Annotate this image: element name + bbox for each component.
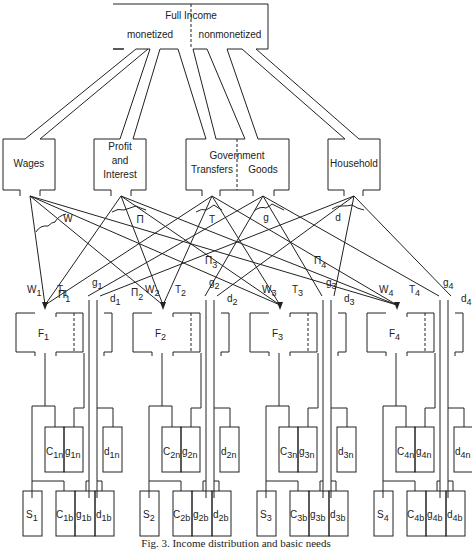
flow-label-d: d	[335, 212, 341, 223]
f3-stem	[266, 353, 289, 498]
full-income-title: Full Income	[165, 10, 217, 21]
arrow-head-icon	[394, 302, 400, 310]
source-profit-box: Profit and Interest	[94, 139, 146, 196]
channel-2-g	[206, 300, 214, 498]
g-2b-label: g2b	[193, 509, 209, 523]
s-3-label: S3	[260, 509, 272, 523]
f1-stem	[32, 353, 55, 498]
w-3-label: W3	[262, 284, 276, 298]
d-2-label: d2	[227, 293, 238, 307]
channel-transfers	[178, 49, 216, 139]
channel-profit	[120, 49, 160, 139]
flow-d-to-f4	[354, 196, 451, 296]
g-3n-label: g3n	[299, 446, 315, 460]
family-group-4: W4T4g4d4F4C4ng4nd4nS4C4bg4bd4b	[367, 277, 472, 536]
channel-1-g	[89, 300, 97, 498]
family-group-3: W3T3g3d3F3C3ng3nd3nS3C3bg3bd3b	[250, 277, 356, 536]
c-1n-label: C1n	[46, 446, 63, 460]
arrow-head-icon	[277, 302, 283, 310]
d1-bracket	[104, 313, 112, 356]
flow-p-to-f4	[121, 196, 397, 305]
f4-box	[367, 313, 434, 356]
c-3b-label: C3b	[290, 509, 307, 523]
f2-g-stem	[191, 353, 201, 427]
flow-label-t: T	[209, 214, 215, 225]
d-4-label: d4	[461, 293, 472, 307]
full-income-box: Full Income monetized nonmonetized	[113, 4, 268, 49]
family-group-1: W1T1g1d1F1C1ng1nd1nS1C1bg1bd1b	[16, 277, 122, 536]
f4-stem	[383, 353, 406, 498]
family-group-2: W2T2g2d2F2C2ng2nd2nS2C2bg2bd2b	[133, 277, 239, 536]
family-groups: W1T1g1d1F1C1ng1nd1nS1C1bg1bd1bW2T2g2d2F2…	[16, 277, 472, 536]
goods-label: Goods	[248, 164, 277, 175]
f3-box	[250, 313, 317, 356]
f4-g-stem	[425, 353, 435, 427]
f1-box	[16, 313, 83, 356]
figure-caption: Fig. 3. Income distribution and basic ne…	[141, 537, 330, 549]
c-2b-label: C2b	[173, 509, 190, 523]
income-channels	[25, 49, 359, 139]
flow-g-to-f3	[263, 196, 322, 296]
government-label: Government	[209, 150, 264, 161]
income-distribution-diagram: Full Income monetized nonmonetized Wages…	[0, 0, 472, 550]
pi-labels: Π1 Π2 Π3 Π4	[58, 255, 326, 304]
c-3n-label: C3n	[280, 446, 297, 460]
f2-stem	[149, 353, 172, 498]
d-1-label: d1	[110, 293, 121, 307]
d-4b-label: d4b	[447, 509, 463, 523]
f-1-label: F1	[38, 328, 49, 342]
d1-stem	[97, 408, 113, 427]
g-4n-label: g4n	[416, 446, 432, 460]
b1-connectors	[32, 481, 102, 491]
flow-label-w: W	[63, 213, 73, 224]
c-4b-label: C4b	[407, 509, 424, 523]
s-4-label: S4	[377, 509, 389, 523]
profit-label-1: Profit	[108, 141, 132, 152]
s-1-label: S1	[26, 509, 38, 523]
transfers-label: Transfers	[191, 164, 233, 175]
f2-box	[133, 313, 200, 356]
wages-label: Wages	[14, 158, 45, 169]
g-4b-label: g4b	[427, 509, 443, 523]
t-3-label: T3	[292, 284, 303, 298]
d-1n-label: d1n	[104, 446, 120, 460]
g-1-label: g1	[92, 277, 103, 291]
d-4n-label: d4n	[455, 446, 471, 460]
s-2-label: S2	[143, 509, 155, 523]
w-1-label: W1	[27, 284, 41, 298]
flow-w-to-f2	[30, 196, 163, 305]
flow-braces: W Π T g d	[36, 204, 364, 232]
g-1n-label: g1n	[65, 446, 81, 460]
d-3-label: d3	[344, 293, 355, 307]
nonmonetized-label: nonmonetized	[199, 29, 262, 40]
d-2n-label: d2n	[221, 446, 237, 460]
household-label: Household	[330, 158, 378, 169]
f1-g-stem	[74, 353, 84, 427]
arrow-head-icon	[160, 302, 166, 310]
c-1b-label: C1b	[56, 509, 73, 523]
g-1b-label: g1b	[76, 509, 92, 523]
f3-g-stem	[308, 353, 318, 427]
c-2n-label: C2n	[163, 446, 180, 460]
pi-4-label: Π4	[314, 255, 326, 270]
source-household-box: Household	[328, 139, 380, 196]
flow-label-pi: Π	[136, 214, 143, 225]
d2-stem	[214, 408, 230, 427]
profit-label-3: Interest	[103, 169, 137, 180]
d3-bracket	[338, 313, 346, 356]
b3-connectors	[266, 481, 336, 491]
flow-label-g: g	[263, 212, 269, 223]
pi-2-label: Π2	[131, 287, 143, 302]
source-wages-box: Wages	[3, 139, 55, 196]
source-government-box: Government Transfers Goods	[186, 139, 289, 196]
d4-stem	[448, 408, 464, 427]
g-3-label: g3	[326, 277, 337, 291]
b2-connectors	[149, 481, 219, 491]
pi-3-label: Π3	[205, 255, 217, 270]
channel-wages	[25, 49, 148, 139]
g-3b-label: g3b	[310, 509, 326, 523]
f-4-label: F4	[389, 328, 400, 342]
g-2n-label: g2n	[182, 446, 198, 460]
t-2-label: T2	[175, 284, 186, 298]
monetized-label: monetized	[127, 29, 173, 40]
